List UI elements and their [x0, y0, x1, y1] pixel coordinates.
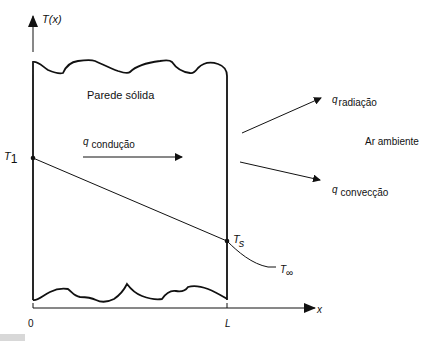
- conduction-label: qcondução: [83, 134, 135, 152]
- radiation-arrow: [242, 98, 321, 133]
- radiation-label: qradiação: [332, 92, 377, 110]
- ts-label: Ts: [233, 229, 244, 247]
- x-axis: [33, 303, 315, 308]
- x-tick-zero: 0: [28, 318, 34, 329]
- heat-transfer-diagram: [0, 0, 432, 341]
- convection-arrow: [240, 162, 320, 180]
- x-tick-l: L: [225, 318, 231, 329]
- ambient-air-label: Ar ambiente: [365, 136, 419, 147]
- x-axis-label: x: [317, 304, 322, 315]
- wall-label: Parede sólida: [87, 89, 154, 101]
- y-axis-label: T(x): [42, 13, 62, 25]
- temperature-profile: [31, 156, 276, 267]
- corner-artifact: [0, 334, 25, 341]
- t-infinity-label: T∞: [280, 259, 293, 277]
- t1-point: [31, 156, 36, 161]
- convection-label: qconvecção: [332, 182, 388, 200]
- t1-label: T1: [4, 146, 17, 164]
